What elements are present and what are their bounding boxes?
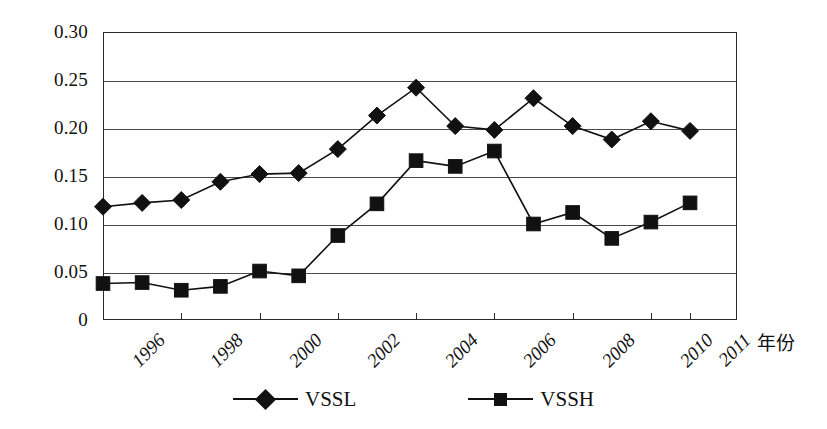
legend-entry-vssh[interactable]: VSSH (468, 389, 594, 410)
square-marker-icon (494, 393, 507, 406)
x-tick-label: 2008 (598, 330, 638, 370)
x-tick-label: 2011 (715, 330, 754, 369)
diamond-marker-icon (255, 388, 276, 409)
x-tick-mark (181, 313, 182, 320)
x-tick-label: 1996 (128, 330, 168, 370)
x-axis: 199619982000200220042006200820102011 (0, 0, 827, 429)
x-tick-mark (690, 313, 691, 320)
x-tick-label: 2004 (441, 330, 481, 370)
x-tick-label: 2002 (363, 330, 403, 370)
x-tick-label: 2000 (285, 330, 325, 370)
x-tick-label: 2010 (676, 330, 716, 370)
legend-label-vssh: VSSH (540, 389, 594, 410)
x-tick-mark (416, 313, 417, 320)
x-tick-mark (651, 313, 652, 320)
chart-legend: VSSL VSSH (0, 382, 827, 416)
x-tick-mark (260, 313, 261, 320)
x-axis-title: 年份 (757, 334, 795, 353)
x-tick-mark (573, 313, 574, 320)
legend-line-right-icon (507, 398, 533, 400)
x-tick-label: 2006 (519, 330, 559, 370)
x-tick-mark (338, 313, 339, 320)
legend-label-vssl: VSSL (305, 389, 356, 410)
legend-line-left-icon (468, 398, 494, 400)
legend-entry-vssl[interactable]: VSSL (233, 389, 356, 410)
x-tick-mark (103, 313, 104, 320)
x-tick-mark (494, 313, 495, 320)
chart-root: 0.300.250.200.150.100.050 19961998200020… (0, 0, 827, 429)
x-tick-label: 1998 (206, 330, 246, 370)
